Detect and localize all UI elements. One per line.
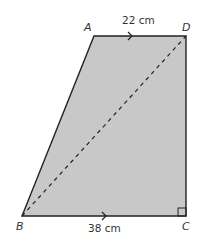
- measurement-bottom: 38 cm: [88, 222, 121, 234]
- measurement-top: 22 cm: [122, 14, 155, 26]
- vertex-label-b: B: [16, 220, 24, 233]
- vertex-label-c: C: [182, 220, 190, 233]
- vertex-label-d: D: [182, 21, 190, 34]
- trapezium-diagram: A D B C 22 cm 38 cm: [0, 0, 208, 248]
- vertex-label-a: A: [83, 21, 92, 34]
